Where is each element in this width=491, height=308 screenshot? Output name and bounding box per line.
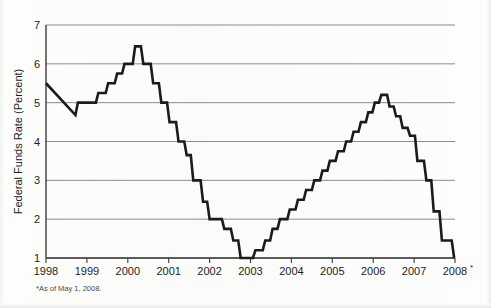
footnote: *As of May 1, 2008. — [36, 284, 101, 293]
x-tick-label-2001: 2001 — [156, 265, 180, 277]
x-tick-label-1998: 1998 — [34, 265, 58, 277]
x-tick-label-2008: 2008 — [443, 265, 467, 277]
federal-funds-rate-chart: 1234567 19981999200020012002200320042005… — [0, 0, 491, 308]
gridlines-group — [46, 25, 455, 258]
y-tick-label-6: 6 — [34, 58, 40, 70]
federal-funds-rate-step-line — [46, 46, 454, 258]
y-tick-labels-group: 1234567 — [34, 19, 40, 264]
y-tick-label-1: 1 — [34, 252, 40, 264]
x-tick-labels-group: 1998199920002001200220032004200520062007… — [34, 265, 467, 277]
y-tick-label-5: 5 — [34, 97, 40, 109]
y-tick-label-4: 4 — [34, 136, 40, 148]
x-tick-label-2006: 2006 — [361, 265, 385, 277]
x-tick-label-2005: 2005 — [320, 265, 344, 277]
x-tick-label-2007: 2007 — [402, 265, 426, 277]
chart-svg: 1234567 19981999200020012002200320042005… — [0, 0, 491, 308]
x-tick-label-2004: 2004 — [279, 265, 303, 277]
x-last-label-asterisk: * — [470, 263, 473, 272]
x-tick-label-2002: 2002 — [197, 265, 221, 277]
y-tick-label-3: 3 — [34, 174, 40, 186]
x-tick-label-2000: 2000 — [116, 265, 140, 277]
x-tick-label-2003: 2003 — [238, 265, 262, 277]
y-tick-label-2: 2 — [34, 213, 40, 225]
y-tick-label-7: 7 — [34, 19, 40, 31]
x-tick-label-1999: 1999 — [75, 265, 99, 277]
y-axis-title: Federal Funds Rate (Percent) — [12, 69, 24, 215]
